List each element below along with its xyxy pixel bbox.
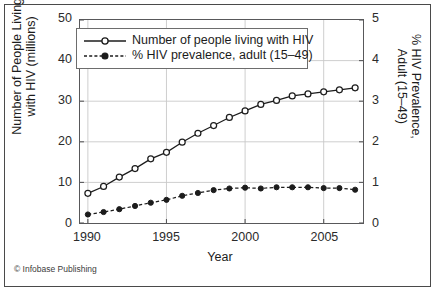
x-axis-title: Year [150,250,290,264]
x-axis-tick-label: 2005 [294,231,354,244]
legend-item-hiv-prevalence: % HIV prevalence, adult (15–49) [83,48,301,63]
x-axis-tick-label: 2000 [215,231,275,244]
x-axis-tick-label: 1990 [57,231,117,244]
y-axis-right-title: % HIV Prevalence, Adult (15–49) [395,11,424,161]
y-axis-left-title: Number of People Living with HIV (millio… [10,0,39,141]
legend-key-filled-circle-dashed [83,49,127,63]
legend-item-people-living-with-hiv: Number of people living with HIV [83,33,301,48]
x-axis-tick-label: 1995 [136,231,196,244]
y-axis-right-tick-label: 1 [372,176,412,189]
chart-legend: Number of people living with HIV % HIV p… [76,28,308,69]
legend-key-open-circle-solid [83,34,127,48]
y-axis-left-tick-label: 10 [32,176,72,189]
legend-label-0: Number of people living with HIV [132,34,313,47]
y-axis-right-tick-label: 0 [372,217,412,230]
copyright-notice: © Infobase Publishing [14,264,97,274]
legend-label-1: % HIV prevalence, adult (15–49) [132,49,313,62]
figure-container: 01020304050 012345 1990199520002005 Numb… [0,0,435,291]
y-axis-left-tick-label: 0 [32,217,72,230]
